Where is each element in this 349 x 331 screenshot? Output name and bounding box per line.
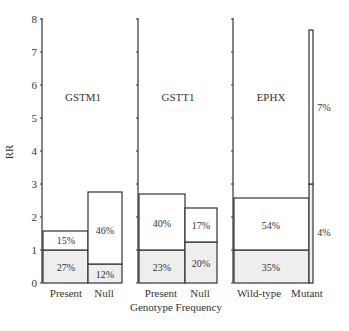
panel-title-gstt1: GSTT1 — [162, 91, 195, 103]
gstm1-present-upper-label: 15% — [57, 235, 75, 246]
gstm1-present-lower-label: 27% — [57, 262, 75, 273]
cat-ephx-wildtype: Wild-type — [237, 287, 281, 299]
ephx-mutant-lower — [309, 184, 313, 283]
gstt1-present-lower-label: 23% — [153, 262, 171, 273]
cat-gstm1-present: Present — [50, 287, 82, 299]
ephx-wildtype-lower-label: 35% — [262, 262, 280, 273]
y-tick-3: 3 — [32, 178, 38, 190]
y-tick-4: 4 — [32, 145, 38, 157]
y-tick-5: 5 — [32, 112, 38, 124]
chart: RR 0 1 2 3 4 5 6 7 8 GSTM1 GSTT1 EPHX 15… — [0, 0, 349, 331]
gstm1-null-lower-label: 12% — [96, 269, 114, 280]
gstt1-null-lower-label: 20% — [192, 258, 210, 269]
y-tick-0: 0 — [32, 277, 38, 289]
gstt1-bars — [139, 194, 217, 283]
gstt1-null-upper-label: 17% — [192, 220, 210, 231]
cat-gstm1-null: Null — [94, 287, 114, 299]
panel-title-gstm1: GSTM1 — [65, 91, 101, 103]
gstt1-present-upper-label: 40% — [153, 218, 171, 229]
ephx-mutant-lower-label: 4% — [317, 227, 330, 238]
y-axis-label: RR — [3, 144, 15, 159]
gstm1-null-upper-label: 46% — [96, 225, 114, 236]
y-tick-2: 2 — [32, 211, 38, 223]
cat-ephx-mutant: Mutant — [291, 287, 323, 299]
y-tick-1: 1 — [32, 244, 38, 256]
y-tick-6: 6 — [32, 79, 38, 91]
ephx-bars — [234, 30, 313, 283]
ephx-mutant-upper — [309, 30, 313, 184]
y-tick-8: 8 — [32, 13, 38, 25]
y-tick-labels: 0 1 2 3 4 5 6 7 8 — [32, 13, 38, 289]
cat-gstt1-null: Null — [190, 287, 210, 299]
ephx-wildtype-upper-label: 54% — [262, 220, 280, 231]
y-tick-7: 7 — [32, 46, 38, 58]
panel-title-ephx: EPHX — [257, 91, 286, 103]
x-axis-label: Genotype Frequency — [130, 301, 222, 313]
ephx-mutant-upper-label: 7% — [317, 102, 330, 113]
cat-gstt1-present: Present — [145, 287, 177, 299]
